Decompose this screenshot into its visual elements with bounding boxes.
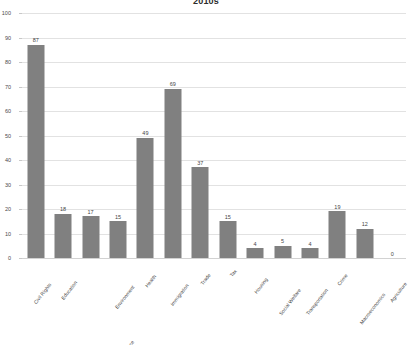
x-axis-label-text: Health	[144, 273, 158, 288]
bar-slot: 17	[77, 13, 104, 258]
bar-chart: 2010s 0102030405060708090100871817154969…	[0, 0, 412, 345]
x-axis-label-text: Agriculture	[389, 281, 408, 304]
x-axis-label-text: Immigration	[169, 283, 190, 307]
bar[interactable]	[219, 221, 236, 258]
bar-value-label: 19	[334, 204, 340, 210]
bar[interactable]	[109, 221, 126, 258]
bar-slot: 0	[379, 13, 406, 258]
y-axis-tick-label: 0	[0, 255, 11, 261]
bar-value-label: 15	[115, 214, 121, 220]
x-axis-label-text: Tax	[228, 268, 238, 278]
bar-value-label: 87	[33, 37, 39, 43]
bar-value-label: 5	[281, 238, 284, 244]
bar[interactable]	[274, 246, 291, 258]
bar-value-label: 18	[60, 206, 66, 212]
bar[interactable]	[82, 216, 99, 258]
x-axis-label-text: Social Welfare	[277, 287, 302, 316]
bar[interactable]	[247, 248, 264, 258]
x-axis-label-text: Transportation	[305, 287, 329, 316]
bar-slot: 37	[187, 13, 214, 258]
y-axis-tick-label: 10	[0, 231, 11, 237]
y-axis-tick-label: 40	[0, 157, 11, 163]
y-axis-tick-label: 30	[0, 182, 11, 188]
bar-slot: 4	[241, 13, 268, 258]
x-axis-label-text: Civil Rights	[32, 282, 52, 305]
y-axis-tick-label: 80	[0, 59, 11, 65]
bar-value-label: 0	[391, 251, 394, 257]
bar-slot: 4	[296, 13, 323, 258]
x-axis-label-text: Housing	[253, 276, 269, 294]
bar-slot: 19	[324, 13, 351, 258]
y-axis-tick-label: 60	[0, 108, 11, 114]
bar[interactable]	[55, 214, 72, 258]
x-axis-label-text: Education	[60, 280, 78, 301]
bar-slot: 18	[49, 13, 76, 258]
bar-slot: 87	[22, 13, 49, 258]
y-axis-tick-label: 20	[0, 206, 11, 212]
y-axis-tick	[19, 258, 22, 259]
y-axis-tick-label: 70	[0, 84, 11, 90]
x-axis-label-text: Environment	[114, 284, 136, 310]
gridline	[22, 258, 406, 259]
x-axis-label-text: Crime	[336, 273, 349, 287]
y-axis-tick-label: 50	[0, 133, 11, 139]
bar[interactable]	[356, 229, 373, 258]
y-axis-tick-label: 100	[0, 10, 11, 16]
x-axis-label-text: Macroeconomics	[358, 292, 386, 325]
bar-value-label: 49	[142, 130, 148, 136]
bar[interactable]	[164, 89, 181, 258]
bar[interactable]	[301, 248, 318, 258]
chart-title: 2010s	[0, 0, 412, 6]
bar[interactable]	[27, 45, 44, 258]
bar-value-label: 4	[254, 241, 257, 247]
bar-value-label: 15	[225, 214, 231, 220]
x-axis-label-text: Banking, Finance, and Domestic Commerce	[70, 339, 135, 345]
bar-value-label: 4	[308, 241, 311, 247]
bar-value-label: 12	[362, 221, 368, 227]
bar-slot: 15	[104, 13, 131, 258]
bar-value-label: 37	[197, 160, 203, 166]
x-axis-label-text: Trade	[199, 272, 212, 286]
y-axis-tick-label: 90	[0, 35, 11, 41]
bar-slot: 15	[214, 13, 241, 258]
bar-value-label: 69	[170, 81, 176, 87]
bar-slot: 12	[351, 13, 378, 258]
bar[interactable]	[192, 167, 209, 258]
plot-area: 0102030405060708090100871817154969371545…	[22, 13, 406, 258]
bar-slot: 49	[132, 13, 159, 258]
bar-slot: 5	[269, 13, 296, 258]
bar[interactable]	[329, 211, 346, 258]
bar-value-label: 17	[87, 209, 93, 215]
bar-slot: 69	[159, 13, 186, 258]
bar[interactable]	[137, 138, 154, 258]
